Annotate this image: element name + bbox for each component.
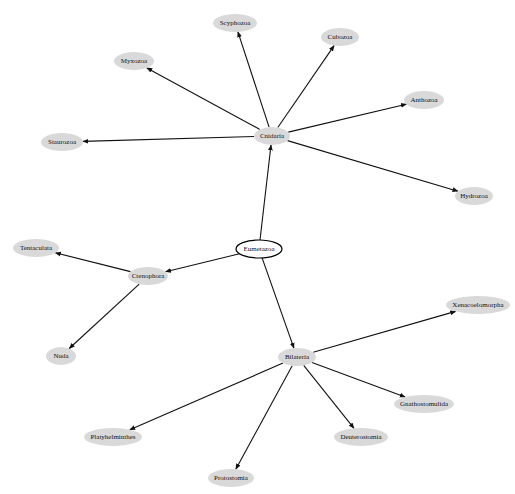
node-label: Tentaculata [20,244,53,252]
edge-cnidaria-to-scyphozoa [238,32,269,127]
edge-cnidaria-to-hydrozoa [288,141,458,192]
edge-eumetazoa-to-ctenophora [166,254,240,272]
node-hydrozoa[interactable]: Hydrozoa [455,187,493,205]
edge [83,137,254,142]
edge [238,32,269,127]
node-label: Xenacoelomorpha [452,301,504,309]
edge-cnidaria-to-cubozoa [278,46,334,128]
node-label: Bilateria [285,353,310,361]
node-label: Ctenophora [132,272,166,280]
node-label: Hydrozoa [460,192,488,200]
phylogeny-graph: EumetazoaCnidariaCtenophoraBilateriaScyp… [0,0,515,494]
node-myxozoa[interactable]: Myxozoa [114,52,154,70]
edge [278,46,334,128]
edge [260,145,271,240]
node-ctenophora[interactable]: Ctenophora [128,267,168,285]
node-scyphozoa[interactable]: Scyphozoa [213,14,257,32]
node-label: Cnidaria [260,132,285,140]
node-bilateria[interactable]: Bilateria [278,348,316,366]
edge-ctenophora-to-tentaculata [55,253,130,272]
node-label: Myxozoa [121,57,148,65]
node-label: Anthozoa [410,96,438,104]
node-staurozoa[interactable]: Staurozoa [41,133,83,151]
edge-bilateria-to-xenacoelomorpha [313,311,455,352]
node-label: Scyphozoa [220,19,252,27]
node-protostomia[interactable]: Protostomia [208,469,254,487]
edge-bilateria-to-protostomia [236,366,292,470]
edge [55,253,130,272]
edge-bilateria-to-gnathostomulida [312,363,405,398]
edge [236,366,292,470]
node-label: Eumetazoa [243,245,275,253]
edge [147,68,260,129]
node-eumetazoa[interactable]: Eumetazoa [236,240,282,258]
edge-bilateria-to-platyhelminthes [130,363,283,430]
edge-eumetazoa-to-cnidaria [260,145,271,240]
node-tentaculata[interactable]: Tentaculata [13,239,59,257]
node-deuterostomia[interactable]: Deuterostomia [334,428,388,446]
node-gnathostomulida[interactable]: Gnathostomulida [394,395,454,413]
node-anthozoa[interactable]: Anthozoa [404,91,444,109]
edge-ctenophora-to-nuda [69,284,139,348]
node-cubozoa[interactable]: Cubozoa [321,28,359,46]
node-label: Protostomia [214,474,249,482]
node-nuda[interactable]: Nuda [46,347,76,365]
node-label: Nuda [53,352,69,360]
node-label: Gnathostomulida [400,400,449,408]
edge [312,363,405,398]
node-platyhelminthes[interactable]: Platyhelminthes [84,428,142,446]
edge [288,104,406,132]
node-cnidaria[interactable]: Cnidaria [254,127,290,145]
edge-cnidaria-to-anthozoa [288,104,406,132]
node-label: Platyhelminthes [90,433,135,441]
node-xenacoelomorpha[interactable]: Xenacoelomorpha [446,296,510,314]
edge [288,141,458,192]
node-label: Staurozoa [48,138,77,146]
edge [130,363,283,430]
edge-cnidaria-to-staurozoa [83,137,254,142]
edge [313,311,455,352]
nodes-layer: EumetazoaCnidariaCtenophoraBilateriaScyp… [13,14,510,487]
node-label: Deuterostomia [340,433,382,441]
edge-cnidaria-to-myxozoa [147,68,260,129]
node-label: Cubozoa [328,33,354,41]
edge-eumetazoa-to-bilateria [262,258,294,348]
edge [262,258,294,348]
edge [166,254,240,272]
edge [69,284,139,348]
